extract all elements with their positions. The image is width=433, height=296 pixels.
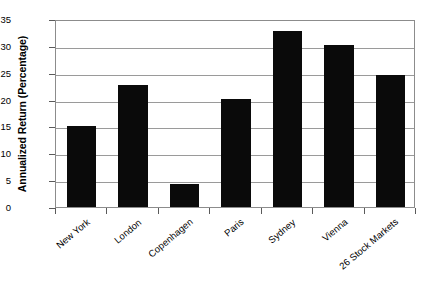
gridline bbox=[56, 75, 414, 76]
x-axis-tick-mark bbox=[261, 208, 262, 214]
y-axis-tick-label: 30 bbox=[0, 41, 11, 52]
bar bbox=[324, 45, 354, 207]
y-axis-tick-label: 0 bbox=[0, 202, 11, 213]
x-axis-tick-mark bbox=[364, 208, 365, 214]
bar bbox=[376, 75, 406, 207]
y-axis-tick-label: 20 bbox=[0, 95, 11, 106]
y-axis-tick-label: 25 bbox=[0, 68, 11, 79]
bar-chart: Annualized Return (Percentage) 051015202… bbox=[0, 0, 433, 296]
x-axis-category-label: Paris bbox=[222, 216, 246, 238]
x-axis-tick-mark bbox=[158, 208, 159, 214]
x-axis-tick-mark bbox=[55, 208, 56, 214]
bar bbox=[118, 85, 148, 207]
bar bbox=[170, 184, 200, 207]
x-axis-category-label: Copenhagen bbox=[146, 216, 195, 259]
plot-area bbox=[55, 20, 415, 208]
x-axis-tick-mark bbox=[106, 208, 107, 214]
bar bbox=[67, 126, 97, 207]
x-axis-tick-mark bbox=[312, 208, 313, 214]
x-axis-category-label: London bbox=[112, 216, 143, 245]
y-axis-title: Annualized Return (Percentage) bbox=[16, 14, 32, 214]
y-axis-tick-label: 10 bbox=[0, 148, 11, 159]
x-axis-category-label: Vienna bbox=[320, 216, 350, 243]
bar bbox=[273, 31, 303, 207]
y-axis-tick-label: 5 bbox=[0, 175, 11, 186]
y-axis-tick-label: 35 bbox=[0, 14, 11, 25]
x-axis-tick-mark bbox=[415, 208, 416, 214]
x-axis-category-label: New York bbox=[54, 216, 92, 250]
x-axis-category-label: Sydney bbox=[266, 216, 297, 245]
y-axis-tick-label: 15 bbox=[0, 121, 11, 132]
gridline bbox=[56, 48, 414, 49]
bar bbox=[221, 99, 251, 207]
x-axis-tick-mark bbox=[209, 208, 210, 214]
